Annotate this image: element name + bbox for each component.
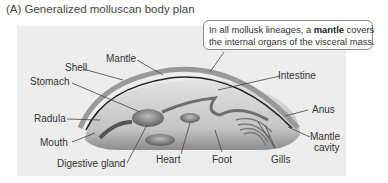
callout-bold-mantle: mantle	[314, 24, 344, 35]
label-mantle: Mantle	[106, 53, 136, 64]
label-mantle-cavity-1: Mantle	[310, 131, 340, 142]
label-gills: Gills	[271, 154, 290, 165]
label-mantle-cavity-2: cavity	[314, 142, 340, 153]
label-radula: Radula	[34, 113, 66, 124]
mantle-callout: In all mollusk lineages, a mantle covers…	[203, 20, 373, 50]
label-foot: Foot	[212, 154, 232, 165]
label-stomach: Stomach	[30, 76, 69, 87]
callout-text-1a: In all mollusk lineages, a	[209, 24, 314, 35]
label-anus: Anus	[312, 104, 335, 115]
stomach-shape	[132, 109, 164, 127]
label-shell: Shell	[65, 62, 87, 73]
callout-text-2: the internal organs of the visceral mass…	[209, 36, 375, 47]
heart-shape	[180, 113, 200, 123]
label-intestine: Intestine	[278, 70, 316, 81]
callout-text-1b: covers	[344, 24, 374, 35]
label-heart: Heart	[156, 154, 180, 165]
label-mouth: Mouth	[40, 137, 68, 148]
digestive-gland-shape	[145, 134, 175, 146]
label-digestive-gland: Digestive gland	[57, 158, 125, 169]
